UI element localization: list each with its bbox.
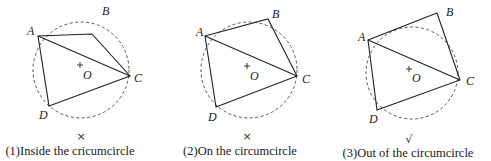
caption-inside: (1)Inside the cricumcircle <box>5 144 135 158</box>
label-o: O <box>83 68 92 82</box>
label-c: C <box>466 74 475 88</box>
label-a: A <box>26 24 35 38</box>
figure-canvas: A B C D O × (1)Inside the cricumcircle A… <box>0 0 491 161</box>
label-d: D <box>368 112 378 126</box>
label-c: C <box>134 71 143 85</box>
caption-on: (2)On the circumcircle <box>183 144 297 158</box>
label-d: D <box>207 110 217 124</box>
circumcircle <box>33 22 129 118</box>
quadrilateral-abcd <box>368 13 460 110</box>
label-o: O <box>250 69 259 83</box>
label-c: C <box>302 72 311 86</box>
label-o: O <box>412 71 421 85</box>
label-a: A <box>195 25 204 39</box>
check-mark-icon: √ <box>405 133 413 146</box>
label-d: D <box>38 108 48 122</box>
panel-on: A B C D O × (2)On the circumcircle <box>183 7 311 158</box>
label-a: A <box>357 30 366 44</box>
label-b: B <box>102 4 110 18</box>
quadrilateral-abcd <box>205 19 297 107</box>
cross-mark-icon: × <box>242 130 251 143</box>
cross-mark-icon: × <box>76 130 85 143</box>
panel-inside: A B C D O × (1)Inside the cricumcircle <box>5 4 143 158</box>
caption-out: (3)Out of the circumcircle <box>343 146 474 160</box>
label-b: B <box>272 7 280 21</box>
label-b: B <box>446 5 454 19</box>
panel-out: A B C D O √ (3)Out of the circumcircle <box>343 5 475 160</box>
